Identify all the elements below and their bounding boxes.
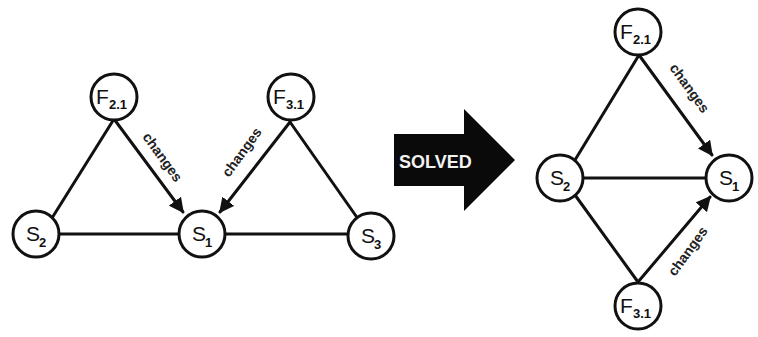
- svg-text:S: S: [361, 224, 375, 247]
- svg-text:3.1: 3.1: [633, 306, 651, 321]
- svg-text:F: F: [273, 85, 286, 108]
- node-s2: S 2: [537, 155, 583, 201]
- svg-text:3.1: 3.1: [286, 97, 304, 112]
- svg-text:1: 1: [732, 179, 739, 194]
- edge-label-changes: changes: [667, 60, 713, 116]
- svg-text:2: 2: [39, 235, 46, 250]
- svg-text:F: F: [96, 85, 109, 108]
- node-f31: F 3.1: [615, 283, 661, 329]
- solved-arrow: SOLVED: [394, 109, 515, 211]
- node-s3: S 3: [348, 213, 394, 259]
- svg-text:2.1: 2.1: [109, 97, 127, 112]
- svg-text:2.1: 2.1: [633, 32, 651, 47]
- node-f21: F 2.1: [615, 9, 661, 55]
- edge-f31-s3: [290, 122, 356, 216]
- svg-text:F: F: [620, 20, 633, 43]
- node-s1: S 1: [706, 155, 752, 201]
- edge-label-changes: changes: [664, 223, 710, 279]
- edge-s2-f31: [575, 195, 638, 282]
- before-diagram: changes changes F 2.1 F 3.1 S 2 S 1 S 3: [13, 74, 394, 259]
- diagram-canvas: changes changes F 2.1 F 3.1 S 2 S 1 S 3: [0, 0, 758, 337]
- svg-text:2: 2: [563, 179, 570, 194]
- svg-text:S: S: [550, 166, 564, 189]
- node-f21: F 2.1: [91, 74, 137, 120]
- edge-label-changes: changes: [140, 129, 186, 185]
- edge-f21-s2: [575, 55, 639, 160]
- svg-text:3: 3: [374, 237, 381, 252]
- svg-text:1: 1: [205, 235, 212, 250]
- node-s2: S 2: [13, 211, 59, 257]
- edge-f21-s2: [52, 119, 114, 218]
- solved-label: SOLVED: [399, 152, 472, 172]
- edge-label-changes: changes: [218, 124, 264, 180]
- node-s1: S 1: [179, 211, 225, 257]
- svg-text:S: S: [26, 222, 40, 245]
- svg-text:F: F: [620, 294, 633, 317]
- svg-text:S: S: [719, 166, 733, 189]
- node-f31: F 3.1: [268, 74, 314, 120]
- after-diagram: changes changes F 2.1 S 2 S 1 F 3.1: [537, 9, 752, 329]
- svg-text:S: S: [192, 222, 206, 245]
